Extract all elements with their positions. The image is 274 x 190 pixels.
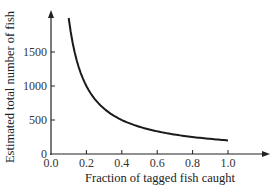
x-tick-label: 0.2 — [79, 156, 94, 170]
data-curve — [69, 18, 228, 140]
y-tick-label: 0 — [41, 147, 47, 161]
y-tick-label: 500 — [29, 113, 47, 127]
x-axis-label: Fraction of tagged fish caught — [85, 171, 235, 185]
y-axis-label: Estimated total number of fish — [3, 10, 17, 163]
y-axis-arrow-icon — [48, 10, 54, 18]
y-tick-label: 1000 — [23, 79, 47, 93]
y-tick-label: 1500 — [23, 45, 47, 59]
y-axis — [48, 10, 54, 155]
x-tick-label: 1.0 — [221, 156, 236, 170]
x-tick-label: 0.8 — [185, 156, 200, 170]
x-axis-arrow-icon — [262, 151, 270, 157]
tick-labels: 0.00.20.40.60.81.0050010001500 — [23, 45, 236, 170]
chart: 0.00.20.40.60.81.0050010001500 Fraction … — [0, 0, 274, 190]
x-tick-label: 0.6 — [150, 156, 165, 170]
x-tick-label: 0.4 — [114, 156, 129, 170]
